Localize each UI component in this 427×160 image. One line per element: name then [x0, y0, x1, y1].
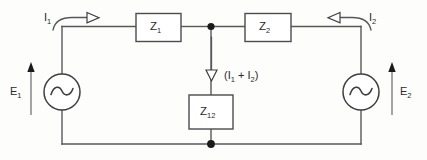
current-arrowhead-shunt — [206, 70, 217, 81]
junction-dot-top — [207, 23, 214, 30]
impedance-label-z1: Z1 — [150, 21, 161, 35]
voltage-label-e2: E2 — [400, 86, 412, 100]
impedance-label-z2: Z2 — [259, 21, 270, 35]
voltage-label-e1: E1 — [10, 86, 22, 100]
circuit-diagram: I1 I2 Z1 Z2 Z12 (I1 + I2) E1 E2 — [0, 0, 427, 160]
current-arrow-path-i2 — [340, 18, 371, 31]
current-arrowhead-i1 — [87, 13, 99, 23]
voltage-arrowhead-e2 — [388, 62, 395, 72]
current-label-i1: I1 — [44, 12, 51, 26]
junction-dot-bottom — [207, 140, 215, 148]
voltage-arrowhead-e1 — [27, 62, 34, 72]
circuit-schematic-canvas — [0, 0, 427, 160]
current-arrowhead-i2 — [328, 13, 340, 23]
current-arrow-path-i1 — [53, 18, 87, 31]
shunt-current-label: (I1 + I2) — [224, 70, 258, 84]
impedance-label-z12: Z12 — [200, 106, 215, 120]
current-label-i2: I2 — [369, 12, 376, 26]
